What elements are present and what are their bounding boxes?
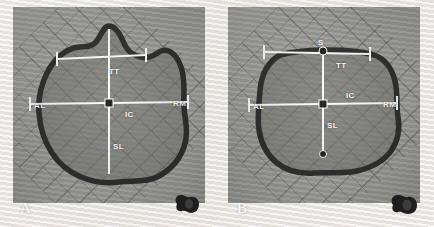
panel-b-photo: S TT IC SL AL RM xyxy=(228,7,420,203)
panel-letter-b: B xyxy=(237,200,247,217)
panel-a: TT IC SL AL RM A xyxy=(0,0,217,227)
panel-a-photo: TT IC SL AL RM xyxy=(13,7,205,203)
panel-b-vignette xyxy=(228,7,420,203)
figure-container: TT IC SL AL RM A xyxy=(0,0,434,227)
panel-b: S TT IC SL AL RM B xyxy=(217,0,434,227)
reference-object-a xyxy=(169,191,203,217)
panel-a-vignette xyxy=(13,7,205,203)
reference-object-b xyxy=(386,191,420,217)
panel-letter-a: A xyxy=(20,200,31,217)
